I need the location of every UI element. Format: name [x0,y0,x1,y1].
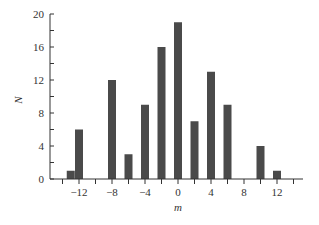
histogram-chart: 048121620−12−8−404812 m N [0,0,319,225]
x-tick-label: 12 [272,186,283,198]
bar [207,72,215,179]
bar [273,171,281,179]
bar [224,105,232,179]
x-tick-label: 4 [208,186,214,198]
y-tick-label: 16 [33,41,45,53]
x-tick-label: 0 [175,186,181,198]
bar [67,171,75,179]
bar [141,105,149,179]
bar [174,22,182,179]
bar [108,80,116,179]
y-tick-label: 12 [33,74,44,86]
bar [75,130,83,180]
x-tick-label: −12 [70,186,87,198]
y-tick-label: 20 [33,8,45,20]
x-tick-label: 8 [241,186,247,198]
bar [158,47,166,179]
y-tick-label: 8 [39,107,45,119]
y-axis-label: N [12,96,24,105]
bar [257,146,265,179]
bars [67,22,281,179]
bar [191,121,199,179]
x-axis-label: m [174,201,182,213]
y-tick-label: 4 [39,140,45,152]
bar [125,154,133,179]
x-tick-label: −8 [106,186,118,198]
x-tick-label: −4 [139,186,151,198]
y-tick-label: 0 [39,173,45,185]
